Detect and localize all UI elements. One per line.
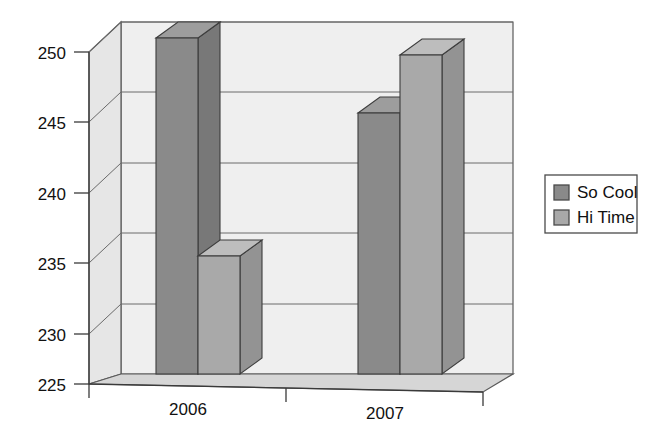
x-tick-labels: 2006 2007 [169,400,404,423]
y-tick-label: 225 [38,376,66,395]
bar-front-face [400,55,442,374]
bar-chart-3d: 250 245 240 235 230 225 [0,0,669,437]
y-axis [74,52,89,384]
x-tick-label-2006: 2006 [169,400,207,419]
legend-swatch-so-cool [554,185,569,200]
y-tick-label: 240 [38,185,66,204]
y-tick-labels: 250 245 240 235 230 225 [38,44,66,395]
y-tick-label: 235 [38,255,66,274]
floor [89,374,513,392]
legend-item-hi-time[interactable]: Hi Time [554,208,635,227]
bar-front-face [198,256,240,374]
y-tick-label: 250 [38,44,66,63]
legend-label-so-cool: So Cool [577,183,637,202]
legend-label-hi-time: Hi Time [577,208,635,227]
y-tick-label: 230 [38,326,66,345]
legend: So Cool Hi Time [545,175,637,233]
bar-front-face [156,38,198,374]
bar-2007-hi-time[interactable] [400,39,464,374]
legend-item-so-cool[interactable]: So Cool [554,183,637,202]
legend-swatch-hi-time [554,210,569,225]
bar-side-face [240,240,262,374]
bar-front-face [358,113,400,374]
bar-2006-hi-time[interactable] [198,240,262,374]
bar-side-face [442,39,464,374]
x-tick-label-2007: 2007 [366,404,404,423]
chart-container: 250 245 240 235 230 225 [0,0,669,437]
y-tick-label: 245 [38,114,66,133]
